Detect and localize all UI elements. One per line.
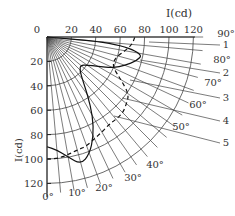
x-tick-label: 40 <box>89 24 102 35</box>
x-tick-label: 120 <box>184 24 203 35</box>
angle-label: 40° <box>146 159 164 170</box>
radial-line-15 <box>47 37 87 188</box>
angle-label: 90° <box>217 28 235 39</box>
x-tick-label: 0 <box>34 24 40 35</box>
y-tick-label: 120 <box>24 178 43 189</box>
angle-label: 0° <box>42 191 53 202</box>
y-tick-label: 20 <box>30 56 43 67</box>
angle-label: 10° <box>68 187 86 198</box>
curve-label-4: 4 <box>223 115 229 126</box>
angle-label: 30° <box>124 172 142 183</box>
x-tick-label: 100 <box>159 24 178 35</box>
y-tick-label: 40 <box>30 81 43 92</box>
polar-luminous-intensity-chart: 020406080100120204060801001200°10°20°30°… <box>0 0 235 216</box>
angle-label: 60° <box>189 99 207 110</box>
y-tick-label: 60 <box>30 105 43 116</box>
curve-label-3: 3 <box>223 92 229 103</box>
x-tick-label: 20 <box>65 24 78 35</box>
curve-label-1: 1 <box>223 39 229 50</box>
radial-line-25 <box>47 37 113 179</box>
x-axis-title: I(cd) <box>166 7 192 20</box>
curve-solid <box>47 37 140 162</box>
angle-label: 20° <box>95 182 113 193</box>
curve-label-leader <box>140 60 220 73</box>
radial-line-65 <box>47 37 189 103</box>
intensity-curves <box>47 37 140 162</box>
angle-label: 70° <box>204 77 222 88</box>
chart-labels: 020406080100120204060801001200°10°20°30°… <box>24 24 235 202</box>
curve-label-5: 5 <box>223 137 229 148</box>
y-axis-title: I(cd) <box>13 138 24 162</box>
polar-grid <box>47 37 203 193</box>
y-tick-label: 100 <box>24 154 43 165</box>
curve-label-leader <box>149 42 220 45</box>
angle-label: 80° <box>213 54 231 65</box>
y-tick-label: 80 <box>30 130 43 141</box>
curve-label-2: 2 <box>223 67 229 78</box>
angle-label: 50° <box>172 121 190 132</box>
x-tick-label: 60 <box>114 24 127 35</box>
curve-label-leader <box>114 116 220 143</box>
axes <box>47 37 195 197</box>
x-tick-label: 80 <box>138 24 151 35</box>
